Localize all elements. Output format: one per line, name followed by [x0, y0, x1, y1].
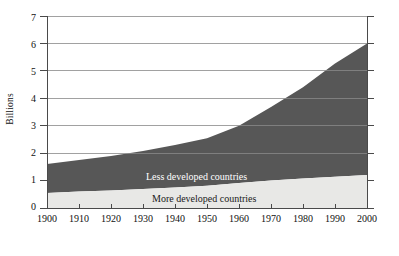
series-label-less-developed: Less developed countries: [146, 172, 247, 182]
series-label-more-developed: More developed countries: [152, 194, 256, 204]
y-tick-marks-right: [367, 16, 374, 208]
x-tick-label-2000: 2000: [347, 214, 387, 224]
y-tick-marks: [40, 16, 47, 208]
population-area-chart: Billions 7 6 5 4 3 2 1 0: [0, 0, 399, 256]
